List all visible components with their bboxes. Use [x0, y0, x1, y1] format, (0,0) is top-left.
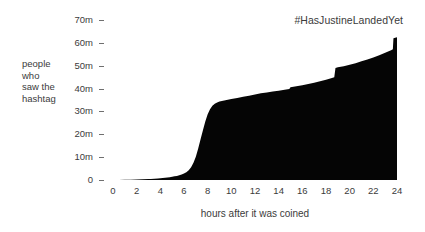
x-tick-label: 8: [198, 186, 218, 196]
y-tick-label: 70m: [55, 15, 93, 25]
plot-area: [113, 20, 397, 180]
y-tick-label: 0: [55, 175, 93, 185]
y-tick-mark: [99, 157, 104, 158]
y-tick-mark: [99, 134, 104, 135]
x-tick-label: 6: [174, 186, 194, 196]
y-tick-label: 10m: [55, 152, 93, 162]
y-tick-label: 50m: [55, 61, 93, 71]
x-tick-label: 12: [245, 186, 265, 196]
y-tick-mark: [99, 43, 104, 44]
y-tick-mark: [99, 89, 104, 90]
chart-container: #HasJustineLandedYet people who saw the …: [0, 0, 425, 232]
x-tick-label: 14: [269, 186, 289, 196]
x-tick-label: 20: [340, 186, 360, 196]
y-tick-mark: [99, 180, 104, 181]
y-tick-mark: [99, 20, 104, 21]
y-tick-label: 60m: [55, 38, 93, 48]
x-tick-label: 24: [387, 186, 407, 196]
y-tick-label: 20m: [55, 129, 93, 139]
x-tick-label: 0: [103, 186, 123, 196]
x-tick-label: 4: [150, 186, 170, 196]
y-tick-label: 40m: [55, 84, 93, 94]
x-tick-label: 16: [292, 186, 312, 196]
x-axis-label: hours after it was coined: [113, 208, 397, 220]
y-tick-mark: [99, 111, 104, 112]
x-tick-label: 2: [127, 186, 147, 196]
x-tick-label: 18: [316, 186, 336, 196]
y-tick-mark: [99, 66, 104, 67]
x-tick-label: 10: [221, 186, 241, 196]
area-series-people-who-saw-the-hashtag: [113, 37, 397, 180]
y-tick-label: 30m: [55, 106, 93, 116]
x-tick-label: 22: [363, 186, 383, 196]
area-chart-svg: [113, 20, 397, 180]
